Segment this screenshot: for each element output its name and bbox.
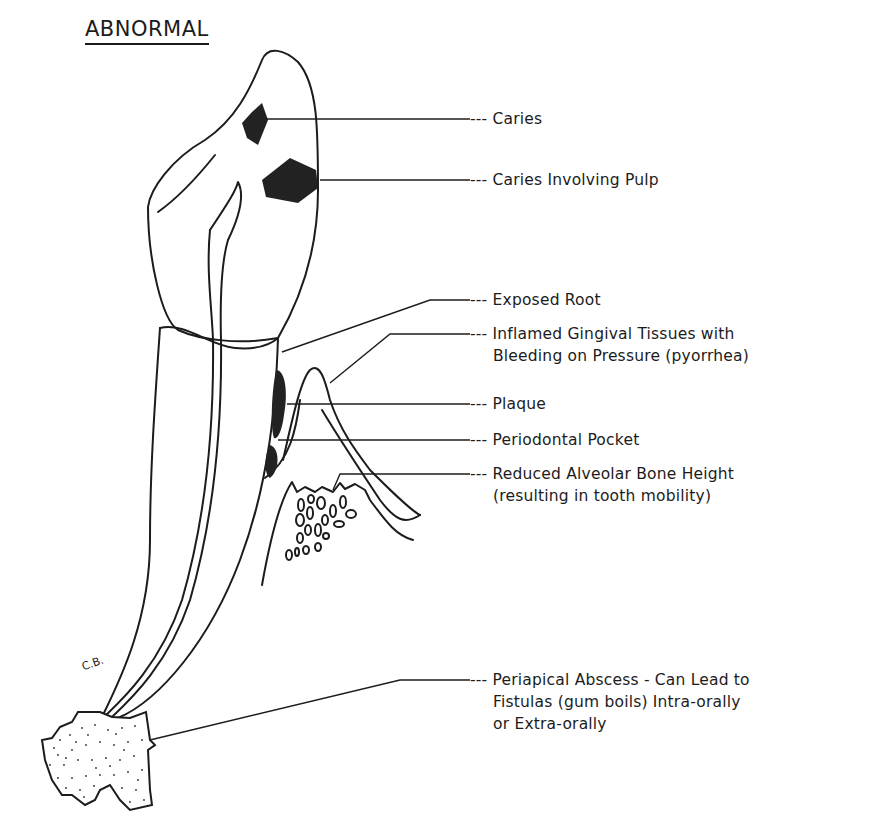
label-periapical-abscess: --- Periapical Abscess - Can Lead to Fis… bbox=[470, 669, 750, 735]
leader-dash: --- bbox=[470, 291, 487, 309]
label-text: Caries Involving Pulp bbox=[493, 171, 659, 189]
leader-exposed-root bbox=[282, 300, 470, 352]
label-text: Inflamed Gingival Tissues with bbox=[493, 325, 735, 343]
label-plaque: --- Plaque bbox=[470, 393, 546, 415]
leader-lines bbox=[150, 119, 470, 740]
label-exposed-root: --- Exposed Root bbox=[470, 289, 601, 311]
label-reduced-bone: --- Reduced Alveolar Bone Height (result… bbox=[470, 463, 734, 507]
leader-inflamed-gingiva bbox=[330, 334, 470, 383]
leader-dash: --- bbox=[470, 671, 487, 689]
label-text: Periapical Abscess - Can Lead to bbox=[493, 671, 750, 689]
label-text: Reduced Alveolar Bone Height bbox=[493, 465, 735, 483]
alveolar-bone bbox=[262, 482, 413, 585]
leader-dash: --- bbox=[470, 431, 487, 449]
caries-pulp-lesion bbox=[262, 158, 318, 203]
label-text-cont: (resulting in tooth mobility) bbox=[470, 485, 734, 507]
abscess bbox=[42, 712, 155, 810]
label-text-cont: or Extra-orally bbox=[470, 713, 750, 735]
caries-lesion bbox=[242, 103, 268, 145]
leader-dash: --- bbox=[470, 110, 487, 128]
label-text: Periodontal Pocket bbox=[493, 431, 640, 449]
artist-signature: C.B. bbox=[80, 654, 105, 674]
gingiva bbox=[283, 368, 420, 515]
label-text: Plaque bbox=[493, 395, 547, 413]
leader-dash: --- bbox=[470, 325, 487, 343]
leader-dash: --- bbox=[470, 171, 487, 189]
label-periodontal-pocket: --- Periodontal Pocket bbox=[470, 429, 639, 451]
pulp-canal-left bbox=[112, 182, 241, 717]
root-left bbox=[103, 328, 160, 715]
label-inflamed-gingiva: --- Inflamed Gingival Tissues with Bleed… bbox=[470, 323, 749, 367]
label-caries-pulp: --- Caries Involving Pulp bbox=[470, 169, 659, 191]
leader-dash: --- bbox=[470, 465, 487, 483]
bone-trabeculae bbox=[286, 495, 356, 560]
caries-lesions bbox=[242, 103, 318, 478]
label-text-cont: Bleeding on Pressure (pyorrhea) bbox=[470, 345, 749, 367]
plaque-deposit bbox=[272, 370, 286, 438]
leader-periapical-abscess bbox=[150, 680, 470, 740]
label-caries: --- Caries bbox=[470, 108, 542, 130]
leader-dash: --- bbox=[470, 395, 487, 413]
pocket-deposit bbox=[266, 445, 278, 478]
label-text: Exposed Root bbox=[493, 291, 601, 309]
leader-reduced-bone bbox=[333, 474, 470, 490]
label-text-cont: Fistulas (gum boils) Intra-orally bbox=[470, 691, 750, 713]
label-text: Caries bbox=[493, 110, 543, 128]
